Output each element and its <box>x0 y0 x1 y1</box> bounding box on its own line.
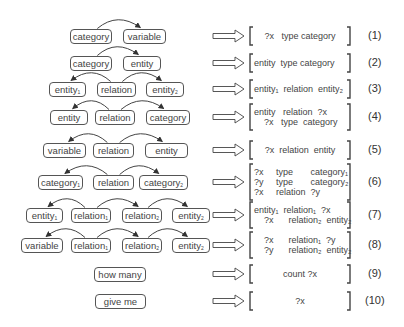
pattern-node: relation1 <box>71 238 111 253</box>
node-subscript: 1 <box>54 215 57 221</box>
row-number-label: (1) <box>368 29 381 41</box>
left-bracket <box>250 292 253 310</box>
node-label: entity <box>155 145 178 156</box>
pattern-node: category <box>146 110 190 125</box>
triple-line: ?x <box>254 296 346 306</box>
row-number-label: (9) <box>368 267 381 279</box>
node-label: give me <box>104 296 137 307</box>
dependency-arc <box>73 101 109 110</box>
triple-line: entity₁ relation entity₂ <box>254 84 346 94</box>
dependency-arc <box>120 134 163 143</box>
row-number-label: (4) <box>368 110 381 122</box>
triple-line: entity relation ?x <box>254 107 346 117</box>
node-label: variable <box>48 145 81 156</box>
left-bracket <box>250 232 253 258</box>
node-label: category <box>73 31 109 42</box>
row-number-label: (7) <box>368 208 381 220</box>
sparql-triple-pattern: ?x relation₁ ?y ?y relation₂ entity₂ <box>254 235 346 255</box>
triple-line: count ?x <box>254 269 346 279</box>
node-label: how many <box>98 269 141 280</box>
node-label: entity <box>178 210 201 221</box>
node-label: category <box>150 112 186 123</box>
triple-line: ?y type category₂ <box>254 177 346 187</box>
query-template-diagram: categoryvariable?x type category(1)categ… <box>0 0 404 327</box>
right-bracket <box>347 27 350 45</box>
sparql-triple-pattern: entity₁ relation entity₂ <box>254 84 346 94</box>
right-bracket <box>347 104 350 130</box>
pattern-node: entity <box>123 56 161 71</box>
sparql-triple-pattern: ?x type category₁?y type category₂?x rel… <box>254 167 346 197</box>
sparql-triple-pattern: entity₁ relation₁ ?x ?x relation₂ entity… <box>254 205 346 225</box>
node-label: entity <box>58 112 81 123</box>
pattern-node: entity2 <box>172 208 210 223</box>
node-subscript: 2 <box>175 89 178 95</box>
triple-line: entity₁ relation₁ ?x <box>254 205 346 215</box>
right-bracket <box>347 292 350 310</box>
right-bracket <box>347 80 350 98</box>
triple-line: ?x relation ?y <box>254 187 346 197</box>
dependency-arc <box>120 166 159 175</box>
pattern-node: how many <box>94 267 146 282</box>
node-label: variable <box>128 31 161 42</box>
pattern-node: entity1 <box>26 208 63 223</box>
transform-arrow-icon <box>213 176 244 188</box>
pattern-node: category1 <box>38 175 83 190</box>
node-subscript: 2 <box>180 182 183 188</box>
node-label: relation <box>125 240 156 251</box>
dependency-arc <box>97 20 140 29</box>
node-label: entity <box>55 84 78 95</box>
triple-line: ?x type category <box>254 31 346 41</box>
node-label: entity <box>32 210 55 221</box>
node-label: entity <box>152 84 175 95</box>
triple-line: ?x type category₁ <box>254 167 346 177</box>
node-subscript: 1 <box>77 182 80 188</box>
node-label: variable <box>25 240 58 251</box>
transform-arrow-icon <box>213 268 244 280</box>
pattern-node: give me <box>95 294 146 309</box>
node-label: relation <box>98 145 129 156</box>
right-bracket <box>347 141 350 159</box>
pattern-node: category <box>70 29 112 44</box>
triple-line: ?x relation₁ ?y <box>254 235 346 245</box>
pattern-node: relation <box>95 110 135 125</box>
pattern-node: entity2 <box>172 238 210 253</box>
pattern-node: relation <box>97 82 136 97</box>
node-label: relation <box>99 112 130 123</box>
node-subscript: 2 <box>156 215 159 221</box>
node-subscript: 2 <box>156 245 159 251</box>
node-label: category <box>144 177 180 188</box>
node-label: entity <box>131 58 154 69</box>
node-label: category <box>73 58 109 69</box>
row-number-label: (8) <box>368 238 381 250</box>
sparql-triple-pattern: ?x <box>254 296 346 306</box>
dependency-arc <box>148 229 187 238</box>
pattern-node: relation1 <box>71 208 111 223</box>
pattern-node: entity <box>145 143 188 158</box>
pattern-node: relation2 <box>122 238 162 253</box>
sparql-triple-pattern: ?x type category <box>254 31 346 41</box>
node-subscript: 2 <box>201 215 204 221</box>
node-subscript: 1 <box>105 215 108 221</box>
row-number-label: (5) <box>368 143 381 155</box>
sparql-triple-pattern: entity relation ?x ?x type category <box>254 107 346 127</box>
left-bracket <box>250 164 253 200</box>
pattern-node: category2 <box>139 175 188 190</box>
left-bracket <box>250 265 253 283</box>
node-label: relation <box>74 210 105 221</box>
dependency-arc <box>122 73 161 82</box>
dependency-arc <box>48 199 85 208</box>
sparql-triple-pattern: ?x relation entity <box>254 145 346 155</box>
pattern-node: relation <box>93 175 134 190</box>
transform-arrow-icon <box>213 30 244 42</box>
dependency-arc <box>46 229 85 238</box>
pattern-node: variable <box>21 238 63 253</box>
left-bracket <box>250 80 253 98</box>
sparql-triple-pattern: count ?x <box>254 269 346 279</box>
row-number-label: (6) <box>368 175 381 187</box>
node-label: relation <box>101 84 132 95</box>
transform-arrow-icon <box>213 83 244 95</box>
node-label: category <box>41 177 77 188</box>
dependency-arc <box>65 166 107 175</box>
left-bracket <box>250 27 253 45</box>
node-label: entity <box>178 240 201 251</box>
